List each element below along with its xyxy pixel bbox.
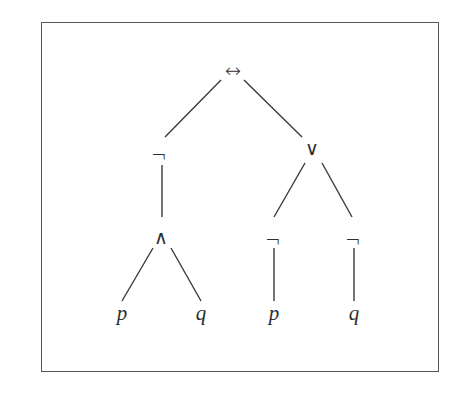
node-not-q: ¬ [345, 231, 361, 250]
node-not-left: ¬ [151, 146, 167, 165]
leaf-p-1: p [117, 303, 128, 324]
edge-and-q [171, 248, 201, 301]
leaf-p-2: p [269, 303, 280, 324]
node-not-p: ¬ [265, 231, 281, 250]
node-or: ∨ [305, 139, 319, 158]
leaf-q-1: q [196, 303, 207, 324]
edge-or-notp [274, 163, 305, 217]
edge-or-notq [322, 163, 352, 217]
leaf-q-2: q [349, 303, 360, 324]
edge-iff-not [165, 80, 221, 137]
node-and: ∧ [154, 228, 168, 247]
edge-and-p [122, 248, 153, 301]
edge-iff-or [244, 80, 302, 137]
node-iff: ↔ [225, 61, 241, 80]
